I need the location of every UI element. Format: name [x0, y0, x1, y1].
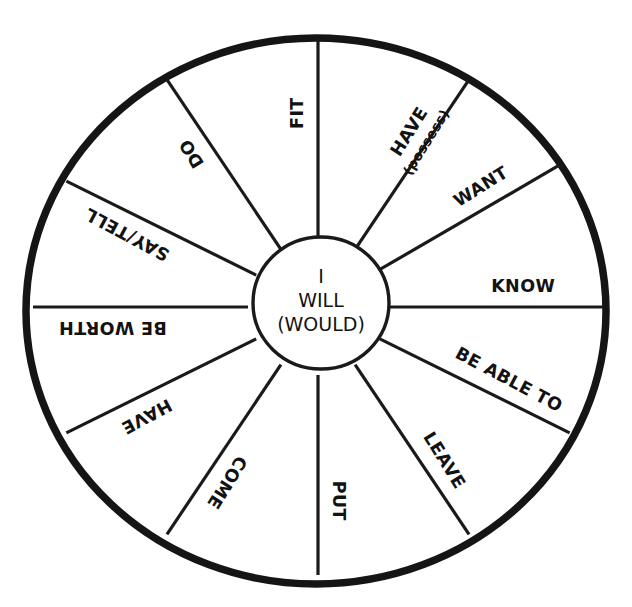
- verb-wheel-diagram: I WILL (WOULD) FITHAVE(possess)WANTKNOWB…: [0, 0, 632, 607]
- spoke-divider-leave: [355, 365, 469, 535]
- sector-leave: LEAVE: [419, 428, 469, 492]
- hub-line-1: I: [318, 265, 324, 287]
- sector-label-be-able-to: BE ABLE TO: [452, 343, 566, 416]
- sector-label-come: COME: [203, 452, 251, 512]
- spoke-divider-want: [377, 165, 559, 271]
- hub-line-3: (WOULD): [277, 313, 365, 335]
- sector-label-want: WANT: [450, 162, 512, 211]
- sector-know: KNOW: [491, 276, 555, 296]
- sector-want: WANT: [450, 162, 512, 211]
- sector-label-say-tell: SAY/TELL: [81, 204, 172, 265]
- sector-come: COME: [203, 452, 251, 512]
- sector-put: PUT: [329, 481, 349, 521]
- sector-fit: FIT: [287, 97, 307, 129]
- sector-be-able-to: BE ABLE TO: [452, 343, 566, 416]
- sector-label-leave: LEAVE: [419, 428, 469, 492]
- spoke-divider-do: [167, 80, 281, 250]
- sector-label-do: DO: [175, 136, 208, 172]
- hub-line-2: WILL: [298, 289, 344, 311]
- sector-label-be-worth: BE WORTH: [59, 318, 167, 338]
- sector-have-possess: HAVE(possess): [381, 95, 453, 178]
- sector-say-tell: SAY/TELL: [81, 204, 172, 265]
- sector-be-worth: BE WORTH: [59, 318, 167, 338]
- sector-label-put: PUT: [329, 481, 349, 521]
- sector-do: DO: [175, 136, 208, 172]
- wheel-canvas: I WILL (WOULD) FITHAVE(possess)WANTKNOWB…: [0, 0, 632, 607]
- sector-label-know: KNOW: [491, 276, 555, 296]
- spoke-divider-come: [167, 365, 281, 535]
- sector-label-fit: FIT: [287, 97, 307, 129]
